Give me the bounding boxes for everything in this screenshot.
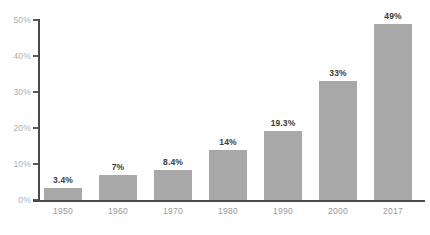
bar[interactable] <box>154 170 192 200</box>
bar[interactable] <box>374 24 412 200</box>
bar-group[interactable]: 19.3% <box>264 20 302 200</box>
x-axis-tick-label: 1970 <box>154 206 192 216</box>
x-axis-tick-label: 1960 <box>99 206 137 216</box>
bar-group[interactable]: 49% <box>374 20 412 200</box>
x-axis-tick-label: 1990 <box>264 206 302 216</box>
bar-value-label: 19.3% <box>271 118 296 128</box>
bar-value-label: 8.4% <box>163 157 183 167</box>
x-axis-tick-label: 2017 <box>374 206 412 216</box>
bar-group[interactable]: 3.4% <box>44 20 82 200</box>
y-axis-tick-label: 40% <box>13 51 31 61</box>
y-axis-tick-labels: 0%10%20%30%40%50% <box>0 20 31 200</box>
x-axis-tick-label: 2000 <box>319 206 357 216</box>
y-axis-tick-label: 10% <box>13 159 31 169</box>
plot-area: 3.4%7%8.4%14%19.3%33%49% <box>38 20 430 200</box>
x-axis-tick-label: 1950 <box>44 206 82 216</box>
bar-group[interactable]: 8.4% <box>154 20 192 200</box>
bar-group[interactable]: 14% <box>209 20 247 200</box>
y-axis-tick-label: 0% <box>18 195 31 205</box>
bar-value-label: 14% <box>219 137 236 147</box>
y-axis-tick-label: 30% <box>13 87 31 97</box>
bar[interactable] <box>209 150 247 200</box>
bar[interactable] <box>44 188 82 200</box>
x-axis-tick-label: 1980 <box>209 206 247 216</box>
bar-value-label: 33% <box>329 68 346 78</box>
bar-group[interactable]: 7% <box>99 20 137 200</box>
x-axis-line <box>33 200 425 202</box>
bar-value-label: 49% <box>384 11 401 21</box>
bar[interactable] <box>264 131 302 200</box>
bar[interactable] <box>99 175 137 200</box>
y-axis-tick-label: 50% <box>13 15 31 25</box>
bar-group[interactable]: 33% <box>319 20 357 200</box>
bar-value-label: 3.4% <box>53 175 73 185</box>
bar[interactable] <box>319 81 357 200</box>
bar-chart: 0%10%20%30%40%50% 3.4%7%8.4%14%19.3%33%4… <box>0 0 430 235</box>
y-axis-tick-label: 20% <box>13 123 31 133</box>
bar-value-label: 7% <box>112 162 125 172</box>
